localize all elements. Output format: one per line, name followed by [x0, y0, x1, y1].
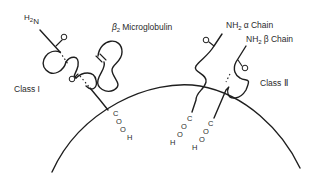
class2-alpha-chain	[192, 34, 222, 112]
class2-alpha-glycan-stem	[209, 42, 214, 46]
class1-cooh-label: C O O H	[113, 109, 132, 142]
beta2-microglobulin-domain	[98, 41, 122, 91]
beta2-marker-1	[96, 56, 102, 62]
class2-beta-glycan-node	[242, 65, 248, 71]
class1-label: Class I	[14, 84, 40, 94]
class2-alpha-cooh-label: C O O H	[170, 114, 193, 147]
svg-text:O: O	[199, 135, 205, 144]
class1-n-terminal-strand	[40, 30, 60, 52]
beta2-microglobulin-label: β2Microglobulin	[111, 22, 173, 33]
class1-glycan2-node	[69, 76, 75, 82]
class2-beta-cooh-label: C O O H	[192, 119, 214, 152]
class1-glycan-node	[61, 34, 67, 40]
beta-chain-label: NH2β Chain	[246, 34, 293, 45]
svg-text:C: C	[208, 119, 214, 128]
cell-membrane-arc	[52, 85, 300, 172]
svg-text:O: O	[120, 125, 126, 134]
class1-alpha1-domain	[43, 51, 66, 73]
svg-text:O: O	[177, 130, 183, 139]
class1-nterm-label: H2N	[24, 13, 39, 26]
svg-text:H: H	[127, 133, 132, 142]
class1-disulfide-1	[60, 52, 68, 64]
svg-text:C: C	[187, 114, 193, 123]
class2-beta-disulfide	[226, 74, 230, 82]
beta2-marker-2	[100, 54, 106, 60]
class2-beta-glycan-stem	[238, 60, 242, 66]
svg-text:H: H	[192, 143, 197, 152]
class1-alpha3-domain	[76, 73, 96, 89]
class2-beta-chain	[214, 46, 248, 118]
alpha-chain-label: NH2α Chain	[226, 20, 273, 31]
mhc-diagram: H2N β2Microglobulin Class I NH2α Chain N…	[0, 0, 314, 180]
class1-disulfide-3	[80, 76, 90, 88]
class2-label: Class Ⅱ	[260, 78, 288, 88]
svg-text:H: H	[170, 138, 175, 147]
class2-alpha-glycan-node	[203, 37, 209, 43]
class1-glycan-stem	[56, 40, 62, 46]
